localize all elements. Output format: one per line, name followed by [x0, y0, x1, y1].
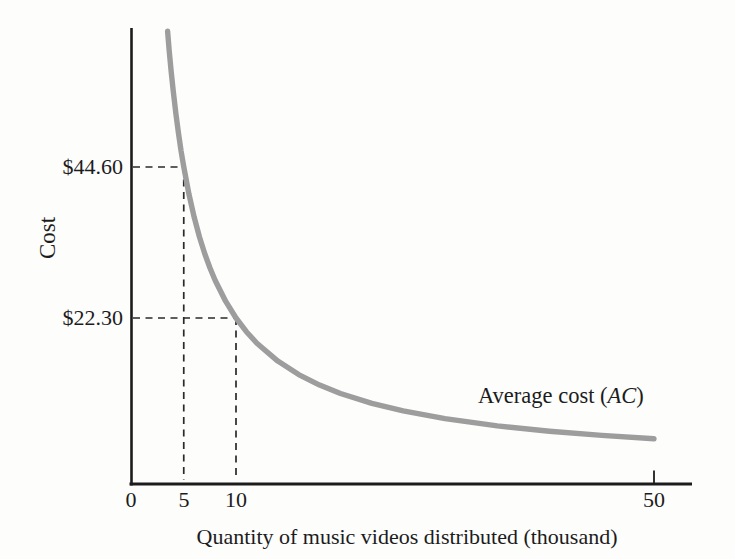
x-axis-title: Quantity of music videos distributed (th…	[106, 524, 708, 550]
y-guide-label-44-60: $44.60	[43, 155, 123, 179]
series-label-close-paren: )	[636, 383, 644, 408]
x-tick-label-50: 50	[632, 488, 676, 512]
x-tick-label-0: 0	[109, 488, 153, 512]
series-label-text: Average cost (	[478, 383, 608, 408]
chart-canvas	[0, 0, 735, 559]
y-axis-title: Cost	[35, 217, 61, 259]
x-tick-label-5: 5	[162, 488, 206, 512]
x-tick-label-10: 10	[214, 488, 258, 512]
series-label-average-cost: Average cost (AC)	[478, 383, 644, 409]
average-cost-figure: $44.60 $22.30 Cost 0 5 10 50 Quantity of…	[0, 0, 735, 559]
series-label-ac-symbol: AC	[608, 383, 637, 408]
y-guide-label-22-30: $22.30	[43, 306, 123, 330]
average-cost-curve	[168, 31, 654, 439]
